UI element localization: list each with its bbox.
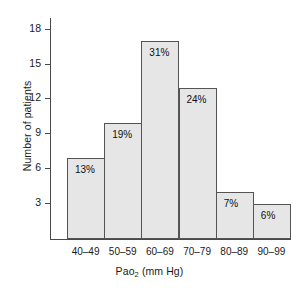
y-tick-label: 15 (21, 57, 41, 70)
y-tick: 3 (45, 203, 51, 204)
y-tick: 15 (45, 64, 51, 65)
bar: 6% (253, 204, 291, 239)
bar-percent-label: 24% (187, 94, 207, 105)
x-category-label: 80–89 (216, 246, 253, 257)
x-category-label: 50–59 (104, 246, 141, 257)
bar: 13% (67, 158, 105, 239)
x-category-label: 90–99 (253, 246, 290, 257)
y-tick-label: 3 (21, 196, 41, 209)
bar-percent-label: 31% (149, 47, 169, 58)
x-axis-category-labels: 40–4950–5960–6970–7980–8990–99 (67, 246, 290, 260)
x-axis-label: Pao2 (mm Hg) (0, 265, 299, 277)
histogram-chart: Number of patients 369121518 13%19%31%24… (0, 0, 299, 288)
bar: 24% (179, 88, 217, 239)
x-axis-line (50, 239, 291, 240)
y-tick-label: 12 (21, 91, 41, 104)
bar: 31% (141, 41, 179, 239)
x-axis-label-subscript: 2 (135, 270, 139, 279)
bar: 19% (104, 123, 142, 239)
bar-series: 13%19%31%24%7%6% (67, 18, 290, 239)
x-category-label: 60–69 (141, 246, 178, 257)
x-axis-label-units: (mm Hg) (139, 265, 184, 277)
x-category-label: 70–79 (179, 246, 216, 257)
y-tick-label: 6 (21, 161, 41, 174)
bar-percent-label: 6% (261, 210, 275, 221)
bar-percent-label: 13% (75, 164, 95, 175)
y-tick: 18 (45, 29, 51, 30)
bar: 7% (216, 192, 254, 239)
bar-percent-label: 7% (224, 198, 238, 209)
x-axis-label-main: Pao (116, 265, 135, 277)
y-tick: 6 (45, 168, 51, 169)
bar-percent-label: 19% (112, 129, 132, 140)
y-tick: 9 (45, 133, 51, 134)
plot-area: 369121518 13%19%31%24%7%6% (50, 18, 291, 240)
y-tick-label: 18 (21, 22, 41, 35)
y-axis-line (50, 18, 51, 240)
y-tick-label: 9 (21, 126, 41, 139)
y-tick: 12 (45, 98, 51, 99)
x-category-label: 40–49 (67, 246, 104, 257)
